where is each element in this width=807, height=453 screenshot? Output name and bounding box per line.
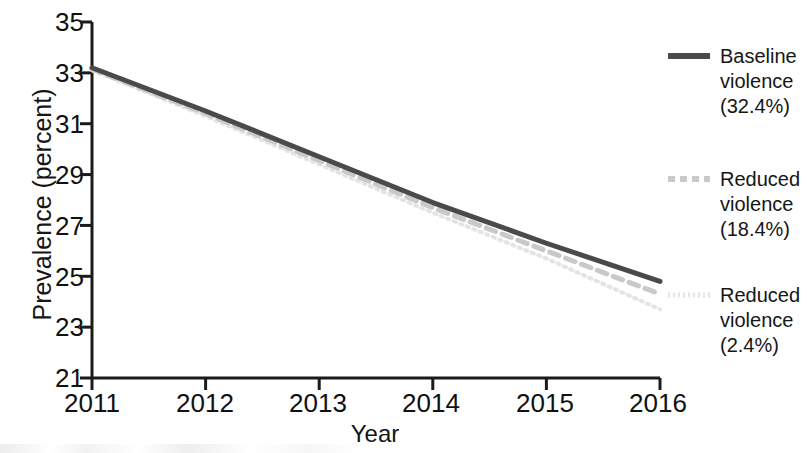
- legend-label-line-3: (32.4%): [720, 94, 807, 119]
- legend-label-baseline-violence: Baseline violence (32.4%): [720, 44, 807, 119]
- plot-area: [0, 0, 807, 453]
- series-line: [92, 68, 660, 282]
- x-axis-ticks: [92, 378, 660, 390]
- dashed-line-swatch: [668, 176, 710, 182]
- legend-label-line-3: (2.4%): [720, 333, 807, 358]
- legend-label-line-3: (18.4%): [720, 217, 807, 242]
- dotted-line-swatch: [668, 292, 710, 298]
- legend-label-line-1: Baseline: [720, 44, 807, 69]
- scan-artifact: [0, 444, 360, 453]
- series-line: [92, 70, 660, 309]
- solid-line-swatch: [668, 53, 710, 59]
- legend-label-line-2: violence: [720, 308, 807, 333]
- legend-label-reduced-violence-2-4: Reduced violence (2.4%): [720, 283, 807, 358]
- y-axis-ticks: [80, 22, 92, 378]
- legend-label-reduced-violence-18-4: Reduced violence (18.4%): [720, 167, 807, 242]
- legend-label-line-1: Reduced: [720, 167, 807, 192]
- legend-label-line-1: Reduced: [720, 283, 807, 308]
- legend-label-line-2: violence: [720, 192, 807, 217]
- prevalence-line-chart-figure: Prevalence (percent) 35 33 31 29 27 25 2…: [0, 0, 807, 453]
- legend-label-line-2: violence: [720, 69, 807, 94]
- data-series-group: [92, 68, 660, 310]
